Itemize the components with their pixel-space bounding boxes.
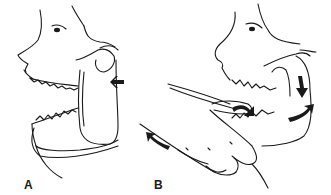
eye-icon (249, 27, 255, 31)
figure-canvas (0, 0, 331, 195)
panel-a-drawing (18, 6, 124, 178)
arrow-curved-left-icon (146, 132, 170, 150)
arrow-down-icon (296, 76, 308, 98)
panel-b-drawing (140, 4, 316, 188)
eye-icon (54, 28, 60, 32)
panel-label-b: B (154, 178, 163, 192)
panel-label-a: A (24, 178, 33, 192)
